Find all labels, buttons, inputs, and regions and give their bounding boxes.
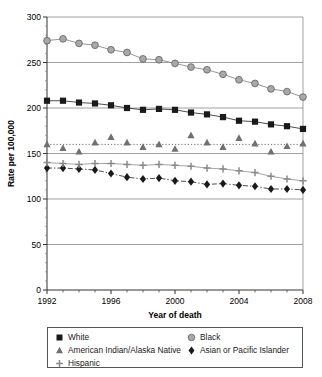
data-point [299, 177, 306, 184]
data-point [300, 94, 307, 101]
data-point [268, 185, 274, 193]
data-point [220, 179, 226, 187]
data-point [235, 134, 242, 141]
y-tick-label-300: 300 [27, 12, 41, 22]
y-tick-label-150: 150 [27, 149, 41, 159]
data-point [43, 159, 50, 166]
triangle-marker-icon [54, 345, 65, 356]
data-point [76, 99, 82, 105]
data-point [204, 180, 210, 188]
legend-column-right: BlackAsian or Pacific Islander [186, 331, 289, 357]
legend-item: American Indian/Alaska Native [54, 344, 181, 356]
x-tick-label-2000: 2000 [166, 296, 185, 306]
data-point [123, 139, 130, 146]
legend-item-label: Asian or Pacific Islander [200, 345, 289, 356]
line-chart: 05010015020025030019921996200020042008Ye… [0, 0, 322, 377]
data-point [140, 55, 147, 62]
data-point [188, 64, 195, 71]
legend-item: White [54, 331, 181, 343]
data-point [252, 119, 258, 125]
data-point [59, 144, 66, 151]
figure: 05010015020025030019921996200020042008Ye… [0, 0, 322, 377]
data-point [139, 162, 146, 169]
data-point [283, 142, 290, 149]
data-point [284, 88, 291, 95]
data-point [155, 161, 162, 168]
chart-legend: WhiteAmerican Indian/Alaska NativeHispan… [47, 327, 303, 368]
series-white [44, 98, 306, 132]
legend-item: Asian or Pacific Islander [186, 344, 289, 356]
y-tick-label-200: 200 [27, 103, 41, 113]
data-point [203, 139, 210, 146]
data-point [252, 80, 259, 87]
data-point [300, 126, 306, 132]
data-point [251, 169, 258, 176]
data-point [60, 35, 67, 42]
data-point [92, 100, 98, 106]
data-point [284, 185, 290, 193]
data-point [123, 161, 130, 168]
data-point [108, 102, 114, 108]
data-point [59, 160, 66, 167]
data-point [236, 76, 243, 83]
data-point [252, 182, 258, 190]
data-point [108, 169, 114, 177]
data-point [220, 71, 227, 78]
legend-item-label: American Indian/Alaska Native [68, 345, 181, 356]
data-point [187, 132, 194, 139]
data-point [283, 175, 290, 182]
data-point [300, 186, 306, 194]
data-point [107, 133, 114, 140]
data-point [91, 160, 98, 167]
data-point [187, 163, 194, 170]
data-point [76, 40, 83, 47]
data-point [268, 85, 275, 92]
y-tick-label-100: 100 [27, 194, 41, 204]
data-point [92, 42, 99, 49]
data-point [251, 140, 258, 147]
data-point [267, 148, 274, 155]
data-point [188, 178, 194, 186]
x-tick-label-1992: 1992 [38, 296, 57, 306]
x-axis-label: Year of death [148, 310, 201, 320]
legend-item-label: White [68, 332, 89, 343]
data-point [140, 175, 146, 183]
x-tick-label-1996: 1996 [102, 296, 121, 306]
data-point [172, 107, 178, 113]
data-point [156, 106, 162, 112]
data-point [171, 145, 178, 152]
legend-item: Hispanic [54, 357, 181, 369]
data-point [284, 123, 290, 129]
plus-marker-icon [54, 358, 65, 369]
circle-marker-icon [186, 332, 197, 343]
data-point [235, 167, 242, 174]
data-point [124, 173, 130, 181]
data-point [267, 173, 274, 180]
y-tick-label-0: 0 [36, 285, 41, 295]
data-point [140, 107, 146, 113]
data-point [220, 114, 226, 120]
data-point [75, 161, 82, 168]
legend-item-label: Hispanic [68, 358, 100, 369]
data-point [43, 141, 50, 148]
y-axis-label: Rate per 100,000 [6, 120, 16, 187]
legend-item: Black [186, 331, 289, 343]
data-point [204, 111, 210, 117]
series-american-indian-alaska-native [43, 132, 306, 155]
x-tick-label-2004: 2004 [230, 296, 249, 306]
square-marker-icon [54, 332, 65, 343]
data-point [156, 174, 162, 182]
data-point [172, 60, 179, 67]
data-point [108, 46, 115, 53]
data-point [236, 181, 242, 189]
data-point [171, 162, 178, 169]
y-tick-label-250: 250 [27, 58, 41, 68]
data-point [204, 66, 211, 73]
data-point [44, 37, 51, 44]
data-point [44, 98, 50, 104]
data-point [124, 49, 131, 56]
data-point [91, 139, 98, 146]
data-point [124, 105, 130, 111]
data-point [219, 165, 226, 172]
data-point [156, 56, 163, 63]
